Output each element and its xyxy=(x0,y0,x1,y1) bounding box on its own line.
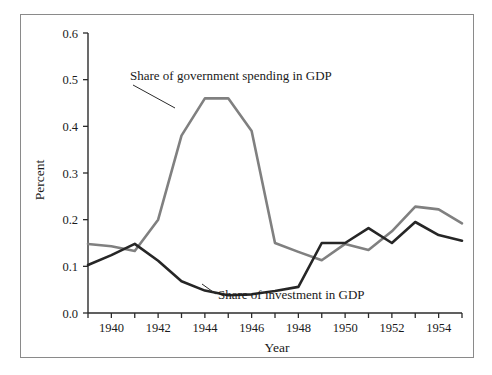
x-tick-label: 1946 xyxy=(239,321,264,335)
y-axis-title: Percent xyxy=(32,160,47,201)
figure-canvas: 0.00.10.20.30.40.50.6 194019421944194619… xyxy=(0,0,492,375)
y-tick-label: 0.5 xyxy=(62,73,78,87)
data-series-group xyxy=(88,98,462,295)
series-line xyxy=(88,222,462,295)
x-tick-label: 1948 xyxy=(286,321,311,335)
x-tick-label: 1950 xyxy=(333,321,358,335)
y-tick-marks xyxy=(83,33,88,313)
x-tick-label: 1942 xyxy=(146,321,171,335)
x-tick-marks xyxy=(88,313,462,318)
annotation-leader-lines xyxy=(133,85,216,294)
y-tick-label: 0.6 xyxy=(62,27,78,41)
y-tick-label: 0.0 xyxy=(62,307,78,321)
x-tick-labels: 19401942194419461948195019521954 xyxy=(99,321,452,335)
y-tick-label: 0.3 xyxy=(62,167,78,181)
x-tick-label: 1940 xyxy=(99,321,124,335)
x-tick-label: 1944 xyxy=(192,321,218,335)
annotation-leader-line xyxy=(133,85,175,108)
x-axis-title: Year xyxy=(265,340,290,355)
x-tick-label: 1952 xyxy=(379,321,404,335)
series-line xyxy=(88,98,462,260)
y-tick-label: 0.2 xyxy=(62,213,78,227)
annotation-label: Share of investment in GDP xyxy=(218,287,365,302)
line-chart: 0.00.10.20.30.40.50.6 194019421944194619… xyxy=(0,0,492,375)
y-tick-label: 0.1 xyxy=(62,260,78,274)
y-tick-label: 0.4 xyxy=(62,120,78,134)
y-tick-labels: 0.00.10.20.30.40.50.6 xyxy=(62,27,78,321)
x-tick-label: 1954 xyxy=(426,321,452,335)
annotation-label: Share of government spending in GDP xyxy=(130,68,332,83)
